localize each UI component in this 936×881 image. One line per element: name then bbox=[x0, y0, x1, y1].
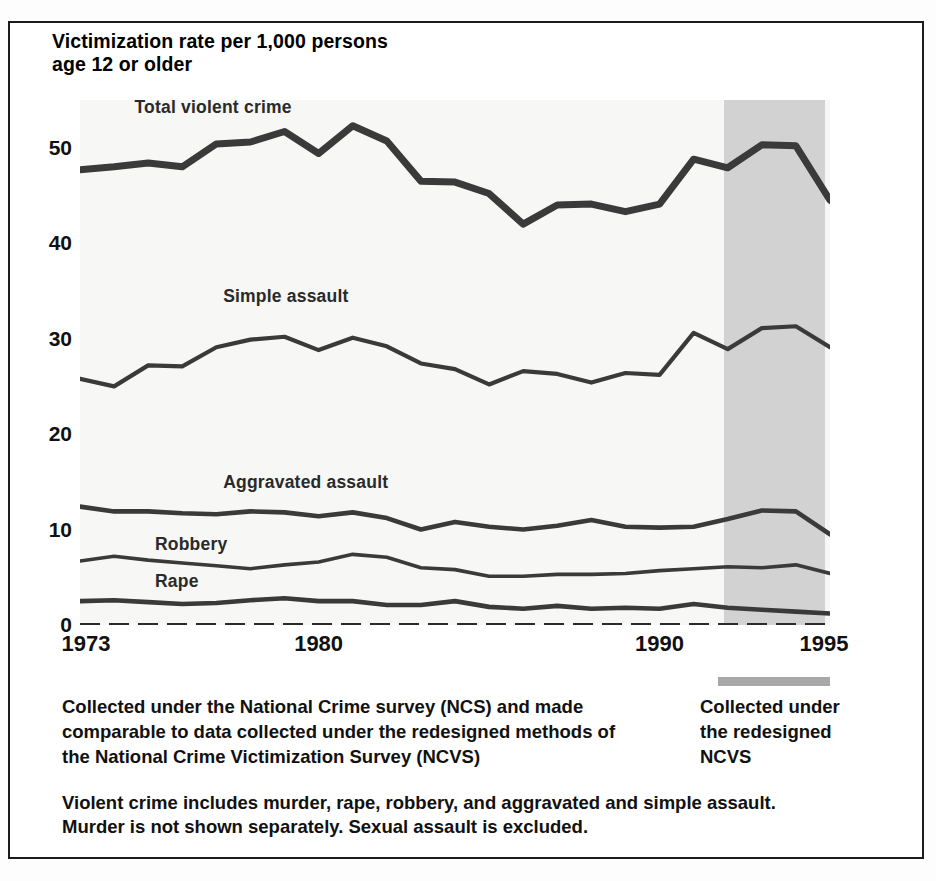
note-left-line-2: comparable to data collected under the r… bbox=[62, 719, 674, 744]
series-label-robbery: Robbery bbox=[155, 534, 227, 555]
series-line-rape bbox=[80, 598, 830, 613]
redesigned-ncvs-period-bar bbox=[718, 677, 830, 686]
x-tick-1990: 1990 bbox=[635, 631, 684, 657]
series-label-simple-assault: Simple assault bbox=[223, 286, 348, 307]
series-line-simple-assault bbox=[80, 326, 830, 386]
y-axis-caption-line-2: age 12 or older bbox=[52, 53, 512, 76]
series-label-rape: Rape bbox=[155, 571, 199, 592]
note-left-line-3: the National Crime Victimization Survey … bbox=[62, 744, 674, 769]
y-tick-50: 50 bbox=[26, 137, 72, 158]
x-tick-1980: 1980 bbox=[294, 631, 343, 657]
note-right-line-3: NCVS bbox=[700, 744, 910, 769]
y-axis-caption: Victimization rate per 1,000 persons age… bbox=[52, 30, 512, 76]
note-collected-under-ncs: Collected under the National Crime surve… bbox=[62, 694, 674, 769]
y-axis-tick-labels: 01020304050 bbox=[10, 100, 72, 625]
note-left-line-1: Collected under the National Crime surve… bbox=[62, 694, 674, 719]
series-label-total-violent-crime: Total violent crime bbox=[135, 97, 292, 118]
note-right-line-1: Collected under bbox=[700, 694, 910, 719]
series-label-aggravated-assault: Aggravated assault bbox=[223, 472, 388, 493]
x-axis-tick-labels: 1973198019901995 bbox=[80, 631, 870, 665]
y-axis-caption-line-1: Victimization rate per 1,000 persons bbox=[52, 30, 512, 53]
note-collected-under-redesigned-ncvs: Collected under the redesigned NCVS bbox=[700, 694, 910, 769]
note-bottom-line-2: Murder is not shown separately. Sexual a… bbox=[62, 815, 892, 839]
plot-area: Total violent crimeSimple assaultAggrava… bbox=[80, 100, 830, 625]
x-tick-1995: 1995 bbox=[800, 631, 849, 657]
note-violent-crime-definition: Violent crime includes murder, rape, rob… bbox=[62, 791, 892, 839]
victimization-rate-figure: Victimization rate per 1,000 persons age… bbox=[0, 0, 936, 881]
series-line-aggravated-assault bbox=[80, 507, 830, 535]
y-tick-30: 30 bbox=[26, 328, 72, 349]
y-tick-20: 20 bbox=[26, 423, 72, 444]
note-right-line-2: the redesigned bbox=[700, 719, 910, 744]
y-tick-10: 10 bbox=[26, 519, 72, 540]
y-tick-40: 40 bbox=[26, 232, 72, 253]
series-line-total-violent-crime bbox=[80, 126, 830, 224]
x-tick-1973: 1973 bbox=[62, 631, 111, 657]
note-bottom-line-1: Violent crime includes murder, rape, rob… bbox=[62, 791, 892, 815]
